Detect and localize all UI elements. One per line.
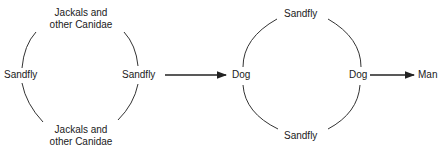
right-cycle-arcs xyxy=(243,19,361,129)
final-host-label: Man xyxy=(418,69,437,81)
reservoir-top-label: Jackals and other Canidae xyxy=(45,7,117,31)
reservoir-top-line2: other Canidae xyxy=(45,19,117,31)
right-cycle-host-right: Dog xyxy=(349,69,367,81)
right-cycle-vector-top: Sandfly xyxy=(284,8,317,20)
left-cycle-vector-right: Sandfly xyxy=(122,69,155,81)
reservoir-bottom-line2: other Canidae xyxy=(45,136,117,148)
left-cycle-arcs xyxy=(22,32,138,122)
reservoir-bottom-line1: Jackals and xyxy=(45,124,117,136)
right-cycle-host-left: Dog xyxy=(232,69,250,81)
right-cycle-vector-bottom: Sandfly xyxy=(284,130,317,142)
reservoir-top-line1: Jackals and xyxy=(45,7,117,19)
left-cycle-vector-left: Sandfly xyxy=(4,69,37,81)
reservoir-bottom-label: Jackals and other Canidae xyxy=(45,124,117,148)
